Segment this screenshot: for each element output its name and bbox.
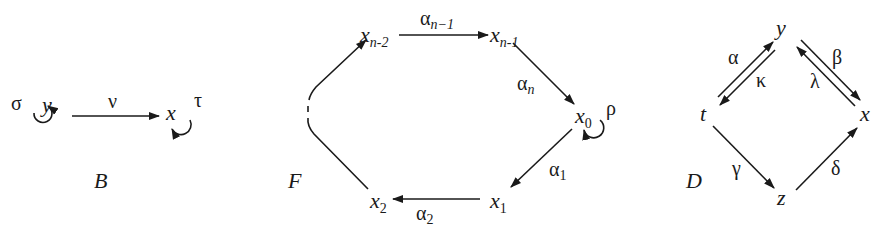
node-x: x (859, 101, 870, 126)
label-delta: δ (831, 157, 840, 179)
diagram-canvas: σ y ν x τ B xn-2 αn−1 xn-1 αn x0 ρ α1 x1 (0, 0, 881, 250)
label-rho: ρ (606, 97, 616, 120)
edge-delta-arrow (796, 128, 857, 190)
diagram-f: xn-2 αn−1 xn-1 αn x0 ρ α1 x1 α2 x2 F (287, 7, 616, 227)
label-tau: τ (194, 89, 202, 111)
caption-d: D (685, 168, 702, 193)
edge-gap-to-x-n-minus-2-arrow (309, 40, 366, 100)
caption-b: B (94, 168, 107, 193)
label-alpha-n: αn (517, 72, 534, 97)
node-x-n-minus-1: xn-1 (489, 22, 518, 50)
diagram-b: σ y ν x τ B (11, 89, 202, 193)
caption-f: F (287, 168, 302, 193)
edge-gamma-arrow (713, 126, 774, 188)
node-z: z (776, 185, 786, 210)
diagram-d: y t x z α κ β λ γ δ D (685, 15, 870, 210)
node-t: t (700, 101, 707, 126)
label-beta: β (832, 46, 842, 69)
label-kappa: κ (756, 69, 766, 91)
edge-x2-to-gap (308, 118, 368, 189)
node-x-n-minus-2: xn-2 (359, 22, 388, 50)
node-y: y (774, 15, 786, 40)
label-alpha-1: α1 (549, 158, 566, 183)
label-alpha-2: α2 (416, 202, 433, 227)
node-y: y (40, 92, 52, 117)
node-x-0: x0 (574, 103, 592, 131)
node-x-1: x1 (489, 188, 507, 216)
label-lambda: λ (810, 70, 820, 92)
label-nu: ν (108, 90, 117, 112)
diagram-svg: σ y ν x τ B xn-2 αn−1 xn-1 αn x0 ρ α1 x1 (0, 0, 881, 250)
label-alpha: α (728, 46, 739, 68)
node-x-2: x2 (369, 188, 387, 216)
edge-lambda-arrow (797, 47, 855, 106)
label-gamma: γ (731, 157, 741, 180)
label-alpha-n-minus-1: αn−1 (420, 7, 454, 32)
label-sigma: σ (11, 92, 22, 114)
node-x: x (165, 100, 176, 125)
